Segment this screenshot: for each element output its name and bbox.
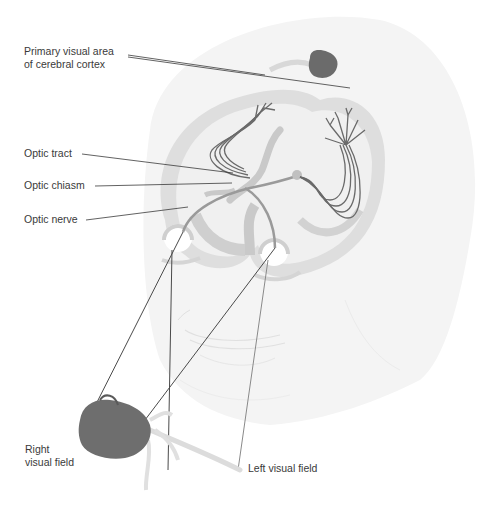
label-primary-visual-area-line1: Primary visual area	[24, 45, 114, 58]
label-primary-visual-area: Primary visual area of cerebral cortex	[24, 45, 114, 71]
diagram-artwork	[0, 0, 485, 508]
label-optic-tract: Optic tract	[24, 147, 72, 160]
label-left-visual-field: Left visual field	[248, 462, 317, 475]
label-right-visual-field-line2: visual field	[25, 456, 74, 469]
visual-pathway-diagram: Primary visual area of cerebral cortex O…	[0, 0, 485, 508]
label-primary-visual-area-line2: of cerebral cortex	[24, 58, 114, 71]
label-optic-nerve: Optic nerve	[24, 213, 78, 226]
label-right-visual-field: Right visual field	[25, 443, 74, 469]
label-optic-chiasm: Optic chiasm	[24, 179, 85, 192]
label-right-visual-field-line1: Right	[25, 443, 74, 456]
